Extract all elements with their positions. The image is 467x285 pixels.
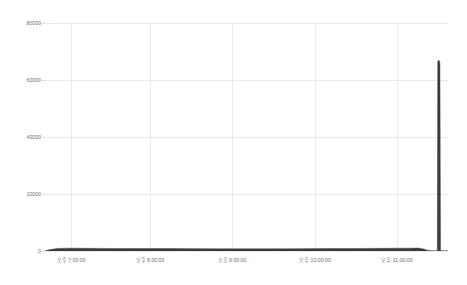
x-axis-tick-label: 오후 11:00:00: [381, 258, 412, 263]
y-axis-tick-label: 40000: [0, 135, 41, 140]
y-axis-tick-label: 80000: [0, 21, 41, 26]
data-series-layer: [45, 23, 448, 251]
plot-area: [45, 23, 448, 251]
y-axis-tick-label: 0: [0, 249, 41, 254]
x-axis-tick-label: 오후 10:00:00: [299, 258, 331, 263]
gridline-horizontal: [45, 251, 448, 252]
x-axis-tick-label: 오후 7:00:00: [57, 258, 86, 263]
chart-container: 80000 60000 40000 20000 0 오후 7: [0, 0, 467, 285]
series-1-area: [45, 23, 448, 251]
y-axis-tick-label: 60000: [0, 78, 41, 83]
x-axis-tick-label: 오후 9:00:00: [218, 258, 247, 263]
x-axis-tick-label: 오후 8:00:00: [136, 258, 165, 263]
y-axis-tick-label: 20000: [0, 192, 41, 197]
